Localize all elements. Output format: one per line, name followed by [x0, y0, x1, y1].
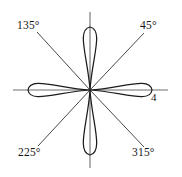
- leader-line-135: [37, 32, 90, 90]
- polar-rose-figure: 135° 45° 225° 315° 4: [0, 0, 182, 177]
- radius-label-4: 4: [151, 92, 157, 103]
- leader-line-315: [90, 90, 144, 147]
- angle-label-45: 45°: [140, 20, 157, 32]
- angle-label-225: 225°: [18, 147, 41, 159]
- leader-line-225: [38, 90, 90, 146]
- angle-label-315: 315°: [132, 147, 155, 159]
- angle-label-135: 135°: [17, 20, 40, 32]
- leader-line-45: [90, 33, 144, 90]
